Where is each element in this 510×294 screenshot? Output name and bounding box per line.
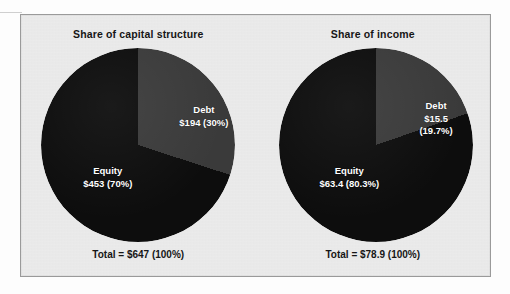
slice-label-equity-income: Equity $63.4 (80.3%) xyxy=(274,165,424,190)
total-label-capital-structure: Total = $647 (100%) xyxy=(21,249,256,260)
figure-panel: Share of capital structure Debt $194 (30… xyxy=(20,14,491,277)
slice-label-debt-income: Debt $15.5 (19.7%) xyxy=(389,100,483,138)
pie-graphic-capital-structure xyxy=(41,48,235,242)
slice-label-debt-value-line2: (19.7%) xyxy=(389,125,483,138)
pie-chart-capital-structure: Share of capital structure Debt $194 (30… xyxy=(21,15,256,276)
slice-label-equity-name: Equity xyxy=(274,165,424,178)
slice-label-debt-value: $194 (30%) xyxy=(152,117,255,130)
slice-label-debt-capital-structure: Debt $194 (30%) xyxy=(152,104,255,129)
slice-label-debt-name: Debt xyxy=(389,100,483,113)
chart-title-income: Share of income xyxy=(256,28,491,40)
slice-label-equity-value: $63.4 (80.3%) xyxy=(274,178,424,191)
total-label-income: Total = $78.9 (100%) xyxy=(256,249,491,260)
slice-label-equity-capital-structure: Equity $453 (70%) xyxy=(35,165,180,190)
slice-label-equity-name: Equity xyxy=(35,165,180,178)
slice-label-debt-name: Debt xyxy=(152,104,255,117)
chart-title-capital-structure: Share of capital structure xyxy=(21,28,256,40)
pie-area-capital-structure: Debt $194 (30%) Equity $453 (70%) xyxy=(21,48,256,244)
pie-graphic-income xyxy=(279,48,473,242)
slice-label-equity-value: $453 (70%) xyxy=(35,178,180,191)
slice-label-debt-value-line1: $15.5 xyxy=(389,113,483,126)
scan-edge-line xyxy=(0,12,22,13)
pie-slices-income xyxy=(279,48,473,242)
pie-slices-capital-structure xyxy=(41,48,235,242)
pie-chart-income: Share of income Debt $15.5 (19.7%) Equit… xyxy=(256,15,491,276)
pie-area-income: Debt $15.5 (19.7%) Equity $63.4 (80.3%) xyxy=(256,48,491,244)
